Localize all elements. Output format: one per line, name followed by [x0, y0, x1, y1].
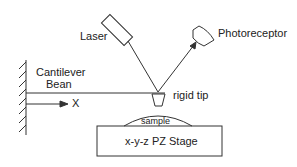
stage-label: x-y-z PZ Stage — [125, 136, 198, 147]
sample-label: sample — [141, 117, 170, 126]
fixed-wall — [19, 60, 26, 135]
rigid-tip — [152, 94, 165, 106]
laser-beam — [128, 41, 158, 92]
photoreceptor-label: Photoreceptor — [218, 28, 287, 39]
x-axis-label: X — [72, 98, 79, 109]
cantilever-label-line1: Cantilever — [36, 67, 86, 78]
cantilever-label-line2: Bean — [46, 79, 72, 90]
laser-label: Laser — [80, 31, 108, 42]
rigid-tip-label: rigid tip — [173, 90, 208, 101]
reflected-beam — [158, 45, 194, 92]
